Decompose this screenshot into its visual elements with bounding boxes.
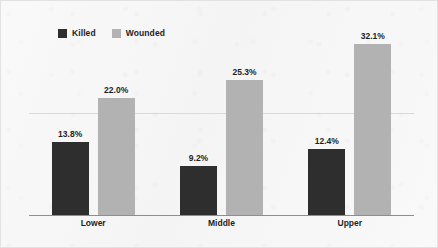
legend-item-wounded[interactable]: Wounded <box>112 29 165 38</box>
bar-middle-wounded[interactable]: 25.3% <box>226 19 263 215</box>
category-label-lower: Lower <box>29 219 157 228</box>
bar-group-middle-bars: 9.2% 25.3% <box>157 19 285 215</box>
legend-label-killed: Killed <box>72 29 96 38</box>
category-label-upper: Upper <box>286 219 414 228</box>
bar-rect-middle-killed <box>180 166 217 215</box>
bar-rect-upper-wounded <box>354 44 391 215</box>
bar-rect-upper-killed <box>308 149 345 215</box>
bar-rect-lower-killed <box>52 142 89 215</box>
bar-group-upper: 12.4% 32.1% <box>286 19 414 215</box>
plot-area: 13.8% 22.0% 9.2% 25.3% <box>29 19 414 215</box>
legend-item-killed[interactable]: Killed <box>58 29 96 38</box>
x-axis-line <box>29 215 414 216</box>
bar-upper-wounded[interactable]: 32.1% <box>354 19 391 215</box>
bar-middle-killed[interactable]: 9.2% <box>180 19 217 215</box>
bar-value-lower-wounded: 22.0% <box>104 86 128 95</box>
bar-value-middle-wounded: 25.3% <box>232 68 256 77</box>
bar-upper-killed[interactable]: 12.4% <box>308 19 345 215</box>
bar-value-upper-wounded: 32.1% <box>361 32 385 41</box>
bar-value-lower-killed: 13.8% <box>58 130 82 139</box>
bar-groups: 13.8% 22.0% 9.2% 25.3% <box>29 19 414 215</box>
bar-rect-lower-wounded <box>98 98 135 215</box>
bar-rect-middle-wounded <box>226 80 263 215</box>
bar-value-middle-killed: 9.2% <box>189 154 208 163</box>
legend-swatch-wounded <box>112 29 121 38</box>
legend-swatch-killed <box>58 29 67 38</box>
chart-legend: Killed Wounded <box>58 29 165 38</box>
bar-group-upper-bars: 12.4% 32.1% <box>286 19 414 215</box>
bar-group-lower: 13.8% 22.0% <box>29 19 157 215</box>
bar-group-middle: 9.2% 25.3% <box>157 19 285 215</box>
legend-label-wounded: Wounded <box>126 29 165 38</box>
bar-value-upper-killed: 12.4% <box>315 137 339 146</box>
category-label-middle: Middle <box>157 219 285 228</box>
bar-lower-killed[interactable]: 13.8% <box>52 19 89 215</box>
bar-lower-wounded[interactable]: 22.0% <box>98 19 135 215</box>
grouped-bar-chart: Killed Wounded 13.8% 22.0% <box>0 0 438 248</box>
x-axis-category-labels: Lower Middle Upper <box>29 219 414 228</box>
bar-group-lower-bars: 13.8% 22.0% <box>29 19 157 215</box>
